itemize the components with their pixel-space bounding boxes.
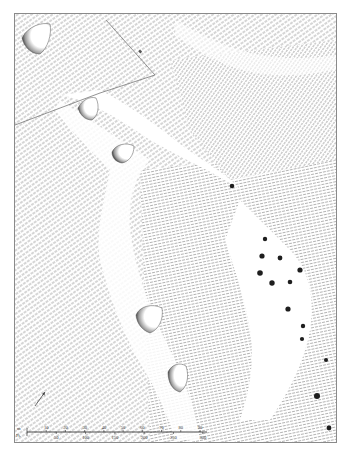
pit xyxy=(288,280,293,285)
metre-tick-label: 80 xyxy=(179,425,184,430)
metre-tick-label: 90 xyxy=(198,425,203,430)
pit xyxy=(230,184,235,189)
feet-tick-label: 250 xyxy=(170,435,178,440)
feet-tick-label: 300 xyxy=(199,435,207,440)
metre-tick-label: 60 xyxy=(140,425,145,430)
survey-map: m Ft. 102030405060708090 501001502002503… xyxy=(0,0,349,453)
pit xyxy=(300,337,304,341)
feet-tick-label: 200 xyxy=(141,435,149,440)
pit xyxy=(301,324,305,328)
pit xyxy=(263,237,267,241)
pit xyxy=(278,256,283,261)
scale-unit-metres: m xyxy=(17,426,21,431)
pit xyxy=(314,393,320,399)
pit xyxy=(327,426,332,431)
feet-tick-label: 100 xyxy=(82,435,90,440)
pit xyxy=(269,280,274,285)
feet-tick-label: 50 xyxy=(54,435,59,440)
metre-tick-label: 30 xyxy=(82,425,87,430)
scale-unit-feet: Ft. xyxy=(16,433,21,438)
pit xyxy=(297,267,302,272)
feet-tick-label: 150 xyxy=(112,435,120,440)
pit xyxy=(285,306,290,311)
metre-tick-label: 40 xyxy=(102,425,107,430)
pit xyxy=(257,270,263,276)
terrain-layer xyxy=(15,14,336,442)
metre-tick-label: 50 xyxy=(121,425,126,430)
pit xyxy=(259,253,264,258)
pit xyxy=(324,358,328,362)
metre-tick-label: 70 xyxy=(159,425,164,430)
metre-tick-label: 20 xyxy=(63,425,68,430)
metre-tick-label: 10 xyxy=(44,425,49,430)
